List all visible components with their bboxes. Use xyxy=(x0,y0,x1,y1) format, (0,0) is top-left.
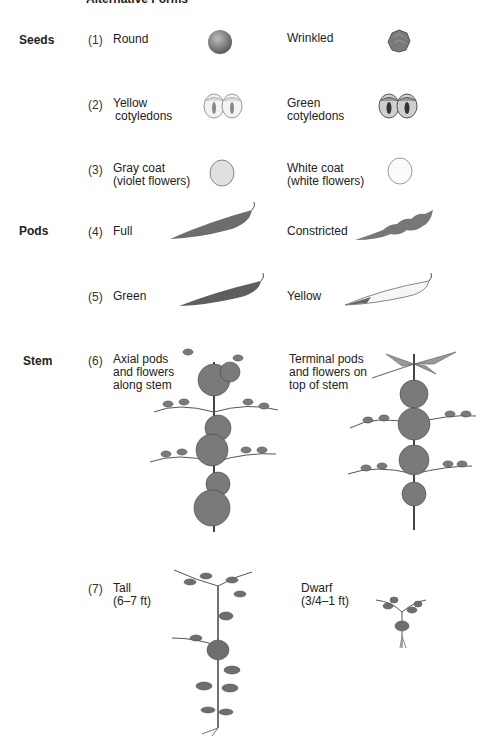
terminal-flowers-plant-icon xyxy=(346,344,482,534)
tall-plant-icon xyxy=(166,566,262,738)
full-pod-icon xyxy=(168,202,258,242)
round-label: Round xyxy=(113,33,148,46)
full-pod-label: Full xyxy=(113,225,132,238)
wrinkled-seed-icon xyxy=(386,28,412,54)
dwarf-label-2: (3/4–1 ft) xyxy=(301,595,349,608)
trait-number-7: (7) xyxy=(88,582,103,596)
green-cotyledons-icon xyxy=(378,92,418,120)
trait-number-3: (3) xyxy=(88,163,103,177)
category-seeds: Seeds xyxy=(19,33,54,47)
gray-coat-seed-icon xyxy=(209,159,235,187)
gray-coat-label-2: (violet flowers) xyxy=(113,175,190,188)
yellow-pod-label: Yellow xyxy=(287,290,321,303)
axial-flowers-plant-icon xyxy=(148,342,284,538)
round-seed-icon xyxy=(207,29,233,55)
category-stem: Stem xyxy=(23,354,52,368)
constricted-pod-label: Constricted xyxy=(287,225,348,238)
trait-number-5: (5) xyxy=(88,290,103,304)
green-pod-icon xyxy=(177,273,267,309)
green-pod-label: Green xyxy=(113,290,146,303)
terminal-label-3: top of stem xyxy=(289,379,348,392)
green-cotyledons-label-2: cotyledons xyxy=(287,110,344,123)
trait-number-2: (2) xyxy=(88,98,103,112)
constricted-pod-icon xyxy=(353,210,435,242)
dwarf-plant-icon xyxy=(372,592,430,652)
yellow-cotyledons-label-2: cotyledons xyxy=(115,110,172,123)
tall-label-2: (6–7 ft) xyxy=(113,595,151,608)
category-pods: Pods xyxy=(19,224,48,238)
wrinkled-label: Wrinkled xyxy=(287,32,333,45)
trait-number-6: (6) xyxy=(88,354,103,368)
figure-header: Alternative Forms xyxy=(86,0,188,6)
trait-number-4: (4) xyxy=(88,225,103,239)
white-coat-label-2: (white flowers) xyxy=(287,175,364,188)
yellow-pod-icon xyxy=(343,273,435,307)
white-coat-seed-icon xyxy=(387,157,413,185)
trait-number-1: (1) xyxy=(88,33,103,47)
yellow-cotyledons-icon xyxy=(203,92,243,120)
